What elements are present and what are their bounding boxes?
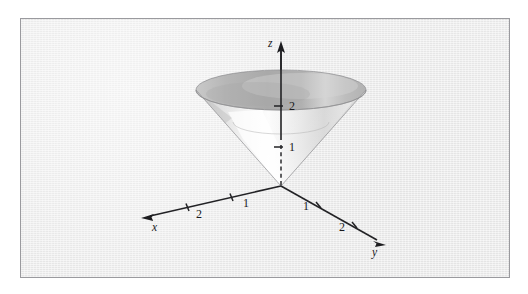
axis-y [281,186,386,247]
axis-y-label: y [371,246,378,259]
cone-surface [190,70,376,196]
axis-z-tick-label-1: 1 [289,140,295,154]
axis-x-tick-label-1: 1 [243,196,249,210]
figure-root: z 2 1 x 1 2 y 1 2 [0,0,528,294]
axis-x-tick-label-2: 2 [196,207,202,221]
axis-x-label: x [151,221,158,233]
axis-x [141,186,281,221]
axis-y-tick-label-2: 2 [339,220,345,234]
axis-x-line [150,186,281,216]
axis-z-tick-label-2: 2 [289,99,295,113]
axis-y-line [281,186,377,240]
cone-diagram: z 2 1 x 1 2 y 1 2 [0,0,528,294]
axis-z-label: z [267,37,273,49]
axis-x-arrowhead [141,214,154,221]
axis-y-tick-label-1: 1 [303,199,309,213]
